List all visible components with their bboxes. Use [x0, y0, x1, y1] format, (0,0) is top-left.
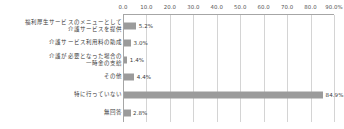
x-tick-label-10: 10.0 [140, 3, 152, 12]
bar-with-value: 4.4% [124, 74, 151, 81]
bar-row: 福利厚生サービスのメニューとして 介護サービスを提供5.2% [0, 18, 341, 34]
bar-with-value: 1.4% [124, 57, 144, 64]
x-tick-label-0: 0.0 [119, 3, 128, 12]
bar [124, 40, 131, 47]
x-axis-tick-labels: 0.010.020.030.040.050.060.070.080.090.0% [0, 3, 341, 14]
x-tick-label-20: 20.0 [164, 3, 176, 12]
bar [124, 57, 127, 64]
bar-value-label: 2.8% [133, 110, 147, 117]
bar-with-value: 5.2% [124, 23, 153, 30]
bar-with-value: 2.8% [124, 110, 147, 117]
category-label: その他 [2, 73, 122, 80]
bar-value-label: 3.0% [134, 40, 148, 47]
bar-row: 介護サービス利用料の助成3.0% [0, 35, 341, 51]
bar-row: 介護が必要となった場合の 一時金の支給1.4% [0, 52, 341, 68]
bar [124, 92, 323, 99]
category-label: 福利厚生サービスのメニューとして 介護サービスを提供 [2, 19, 122, 33]
bar [124, 110, 131, 117]
x-tick-label-60: 60.0 [257, 3, 269, 12]
category-label: 無回答 [2, 109, 122, 116]
bar-with-value: 3.0% [124, 40, 148, 47]
x-tick-label-40: 40.0 [211, 3, 223, 12]
x-tick-label-70: 70.0 [281, 3, 293, 12]
bar [124, 23, 136, 30]
bar-value-label: 1.4% [130, 57, 144, 64]
x-tick-label-80: 80.0 [304, 3, 316, 12]
category-label: 介護サービス利用料の助成 [2, 39, 122, 46]
bar-row: その他4.4% [0, 69, 341, 85]
category-label: 特に行っていない [2, 91, 122, 98]
bar-row: 特に行っていない84.9% [0, 87, 341, 103]
bar-row: 無回答2.8% [0, 105, 341, 121]
bar-value-label: 84.9% [326, 92, 344, 99]
bar-with-value: 84.9% [124, 92, 344, 99]
bar-value-label: 4.4% [137, 74, 151, 81]
category-label: 介護が必要となった場合の 一時金の支給 [2, 53, 122, 67]
x-tick-label-50: 50.0 [234, 3, 246, 12]
bar-value-label: 5.2% [139, 23, 153, 30]
bar [124, 74, 134, 81]
x-tick-label-30: 30.0 [187, 3, 199, 12]
x-tick-label-90: 90.0% [325, 3, 343, 12]
bar-rows: 福利厚生サービスのメニューとして 介護サービスを提供5.2%介護サービス利用料の… [0, 15, 341, 122]
